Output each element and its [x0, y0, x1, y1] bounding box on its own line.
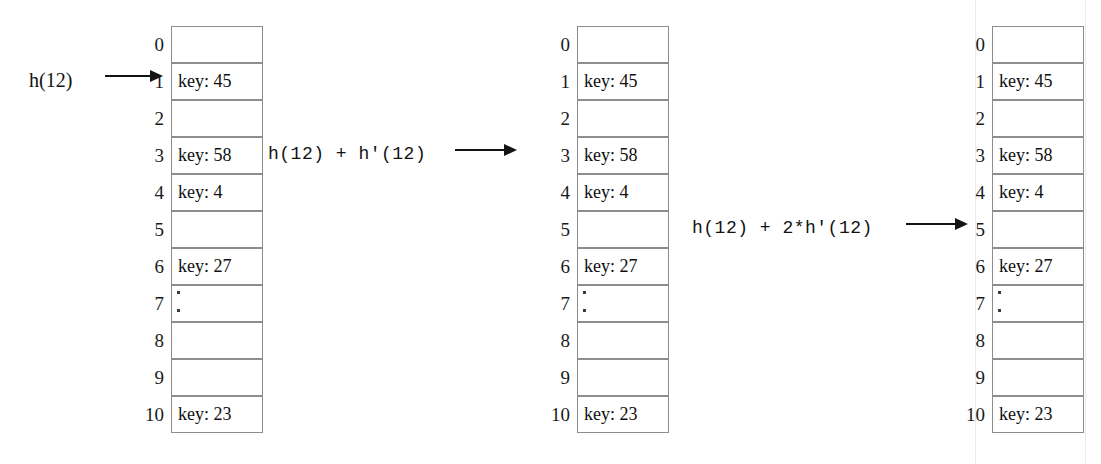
slot-index-label: 2	[155, 100, 165, 137]
slot-cell	[171, 26, 263, 63]
slot-index-label: 3	[155, 137, 165, 174]
slot-index-label: 3	[976, 137, 986, 174]
slot-index-label: 1	[976, 63, 986, 100]
vertical-ellipsis-icon	[177, 289, 187, 318]
probe-1-label: h(12)	[29, 70, 72, 90]
slot-index-label: 7	[155, 285, 165, 322]
table-row: 0	[577, 26, 669, 63]
table-row: 5	[577, 211, 669, 248]
slot-cell	[171, 211, 263, 248]
table-row: 9	[577, 359, 669, 396]
table-row: 7	[992, 285, 1084, 322]
second-probe-table: 01key: 4523key: 584key: 456key: 2778910k…	[577, 26, 669, 433]
table-row: 8	[577, 322, 669, 359]
table-row: 2	[992, 100, 1084, 137]
vertical-ellipsis-icon	[998, 289, 1008, 318]
table-row: 9	[992, 359, 1084, 396]
slot-cell	[577, 26, 669, 63]
slot-value: key: 4	[584, 174, 629, 211]
probe-3-arrow	[906, 218, 968, 230]
slot-index-label: 1	[561, 63, 571, 100]
probe-2-arrow	[455, 144, 517, 156]
probe-1-arrow	[105, 70, 163, 82]
table-row: 4key: 4	[171, 174, 263, 211]
table-row: 0	[992, 26, 1084, 63]
table-row: 10key: 23	[992, 396, 1084, 433]
slot-cell	[577, 322, 669, 359]
slot-cell	[171, 322, 263, 359]
slot-index-label: 7	[976, 285, 986, 322]
slot-value: key: 4	[178, 174, 223, 211]
table-row: 6key: 27	[171, 248, 263, 285]
slot-value: key: 45	[584, 63, 638, 100]
slot-value: key: 58	[178, 137, 232, 174]
slot-cell	[577, 211, 669, 248]
table-row: 5	[171, 211, 263, 248]
slot-cell	[992, 322, 1084, 359]
slot-value: key: 45	[999, 63, 1053, 100]
slot-index-label: 5	[976, 211, 986, 248]
table-row: 3key: 58	[577, 137, 669, 174]
slot-value: key: 27	[178, 248, 232, 285]
slot-index-label: 5	[155, 211, 165, 248]
table-row: 7	[577, 285, 669, 322]
slot-index-label: 9	[155, 359, 165, 396]
table-row: 2	[171, 100, 263, 137]
table-row: 4key: 4	[992, 174, 1084, 211]
table-row: 3key: 58	[992, 137, 1084, 174]
vertical-ellipsis-icon	[583, 289, 593, 318]
slot-index-label: 8	[155, 322, 165, 359]
slot-value: key: 4	[999, 174, 1044, 211]
slot-index-label: 8	[561, 322, 571, 359]
probe-2-label: h(12) + h'(12)	[268, 145, 426, 163]
table-row: 8	[171, 322, 263, 359]
table-row: 6key: 27	[992, 248, 1084, 285]
slot-cell	[992, 26, 1084, 63]
slot-value: key: 58	[584, 137, 638, 174]
slot-value: key: 45	[178, 63, 232, 100]
table-row: 10key: 23	[577, 396, 669, 433]
slot-index-label: 10	[145, 396, 164, 433]
table-row: 6key: 27	[577, 248, 669, 285]
slot-index-label: 6	[561, 248, 571, 285]
table-row: 1key: 45	[171, 63, 263, 100]
slot-cell	[577, 359, 669, 396]
scan-artifact-line-far-right	[1085, 0, 1086, 464]
table-row: 3key: 58	[171, 137, 263, 174]
slot-value: key: 23	[584, 396, 638, 433]
slot-cell	[992, 100, 1084, 137]
slot-index-label: 9	[561, 359, 571, 396]
slot-index-label: 6	[976, 248, 986, 285]
table-row: 1key: 45	[577, 63, 669, 100]
slot-index-label: 3	[561, 137, 571, 174]
slot-cell	[171, 359, 263, 396]
table-row: 10key: 23	[171, 396, 263, 433]
slot-cell	[992, 359, 1084, 396]
first-probe-table: 01key: 4523key: 584key: 456key: 2778910k…	[171, 26, 263, 433]
table-row: 0	[171, 26, 263, 63]
slot-index-label: 8	[976, 322, 986, 359]
table-row: 4key: 4	[577, 174, 669, 211]
table-row: 2	[577, 100, 669, 137]
slot-index-label: 4	[976, 174, 986, 211]
slot-cell	[171, 100, 263, 137]
third-probe-table: 01key: 4523key: 584key: 456key: 2778910k…	[992, 26, 1084, 433]
table-row: 7	[171, 285, 263, 322]
slot-index-label: 2	[976, 100, 986, 137]
slot-index-label: 0	[561, 26, 571, 63]
table-row: 8	[992, 322, 1084, 359]
slot-index-label: 7	[561, 285, 571, 322]
table-row: 9	[171, 359, 263, 396]
slot-value: key: 58	[999, 137, 1053, 174]
slot-index-label: 0	[976, 26, 986, 63]
probe-3-label: h(12) + 2*h'(12)	[692, 219, 873, 237]
slot-index-label: 9	[976, 359, 986, 396]
slot-value: key: 27	[584, 248, 638, 285]
table-row: 1key: 45	[992, 63, 1084, 100]
slot-cell	[577, 100, 669, 137]
slot-index-label: 4	[561, 174, 571, 211]
slot-index-label: 10	[966, 396, 985, 433]
slot-value: key: 23	[178, 396, 232, 433]
slot-index-label: 10	[551, 396, 570, 433]
slot-index-label: 0	[155, 26, 165, 63]
